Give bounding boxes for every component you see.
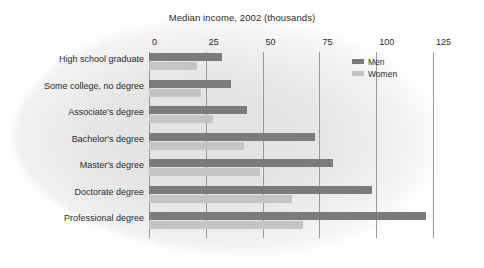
chart-screenshot: Median income, 2002 (thousands) High sch…	[0, 0, 484, 268]
legend-swatch-icon	[352, 59, 364, 64]
legend-item-men: Men	[352, 56, 408, 67]
bar-women	[149, 142, 244, 150]
gridline-125	[433, 52, 434, 238]
bar-men	[149, 159, 333, 167]
bar-men	[149, 133, 315, 141]
category-label: High school graduate	[8, 54, 144, 64]
bar-men	[149, 212, 426, 220]
legend-swatch-icon	[352, 71, 364, 76]
bar-women	[149, 195, 292, 203]
bar-men	[149, 53, 222, 61]
x-tick-label-100: 100	[376, 37, 394, 47]
bar-men	[149, 106, 247, 114]
x-tick-label-25: 25	[206, 37, 219, 47]
chart-title: Median income, 2002 (thousands)	[0, 12, 484, 23]
chart-legend: MenWomen	[352, 56, 408, 80]
category-label: Doctorate degree	[8, 187, 144, 197]
legend-label: Women	[368, 69, 397, 79]
x-tick-label-75: 75	[319, 37, 332, 47]
gridline-75	[319, 52, 320, 238]
category-axis-labels: High school graduateSome college, no deg…	[8, 52, 144, 238]
bar-women	[149, 89, 201, 97]
category-label: Associate's degree	[8, 107, 144, 117]
x-tick-label-50: 50	[263, 37, 276, 47]
bar-women	[149, 115, 213, 123]
bar-women	[149, 221, 303, 229]
legend-label: Men	[368, 57, 385, 67]
bar-women	[149, 168, 260, 176]
category-label: Bachelor's degree	[8, 134, 144, 144]
category-label: Some college, no degree	[8, 81, 144, 91]
x-tick-label-125: 125	[433, 37, 451, 47]
category-label: Professional degree	[8, 213, 144, 223]
x-tick-label-0: 0	[149, 37, 157, 47]
legend-item-women: Women	[352, 68, 408, 79]
bar-women	[149, 62, 197, 70]
bar-men	[149, 80, 231, 88]
category-label: Master's degree	[8, 160, 144, 170]
gridline-50	[263, 52, 264, 238]
bar-men	[149, 186, 372, 194]
